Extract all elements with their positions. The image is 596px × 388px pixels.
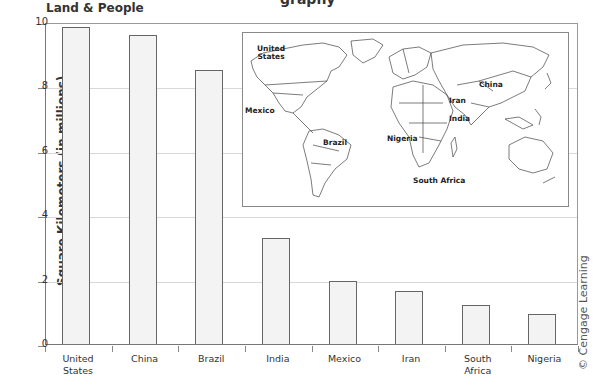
map-label-nigeria: Nigeria: [387, 135, 418, 143]
x-tick-mark: [511, 346, 512, 352]
y-tick-label: 6: [28, 145, 48, 156]
map-label-india: India: [449, 115, 470, 123]
bar-india: [262, 238, 290, 344]
bar-mexico: [329, 281, 357, 344]
x-tick-label: India: [245, 353, 311, 365]
x-tick-mark: [378, 346, 379, 352]
bar-united-states: [62, 27, 90, 344]
x-tick-label: UnitedStates: [45, 353, 111, 377]
map-label-brazil: Brazil: [323, 139, 347, 147]
bar-nigeria: [528, 314, 556, 344]
x-tick-label: Nigeria: [511, 353, 577, 365]
cut-off-title: graphy: [280, 0, 336, 7]
copyright-credit: © Cengage Learning: [577, 255, 590, 370]
bar-brazil: [195, 70, 223, 344]
x-tick-label: China: [112, 353, 178, 365]
x-tick-mark: [245, 346, 246, 352]
x-tick-mark: [312, 346, 313, 352]
y-tick-label: 4: [28, 209, 48, 220]
bar-china: [129, 35, 157, 344]
y-tick-label: 2: [28, 274, 48, 285]
map-label-united-states: UnitedStates: [257, 45, 285, 61]
x-tick-mark: [445, 346, 446, 352]
map-label-china: China: [479, 81, 503, 89]
bar-south-africa: [462, 305, 490, 344]
gridline: [46, 282, 577, 283]
x-tick-label: Mexico: [312, 353, 378, 365]
x-tick-mark: [112, 346, 113, 352]
bar-iran: [395, 291, 423, 344]
x-tick-label: Iran: [378, 353, 444, 365]
map-label-mexico: Mexico: [245, 107, 275, 115]
y-tick-label: 8: [28, 80, 48, 91]
world-map-inset: UnitedStates Mexico Brazil Nigeria South…: [242, 32, 569, 207]
y-tick-label: 0: [28, 338, 48, 349]
x-tick-label: SouthAfrica: [445, 353, 511, 377]
y-tick-label: 10: [28, 16, 48, 27]
gridline: [46, 217, 577, 218]
map-label-south-africa: South Africa: [413, 177, 465, 185]
world-map-icon: [243, 33, 567, 205]
map-label-iran: Iran: [449, 97, 466, 105]
x-tick-label: Brazil: [178, 353, 244, 365]
chart-subtitle: Land & People: [46, 1, 144, 15]
x-tick-mark: [178, 346, 179, 352]
